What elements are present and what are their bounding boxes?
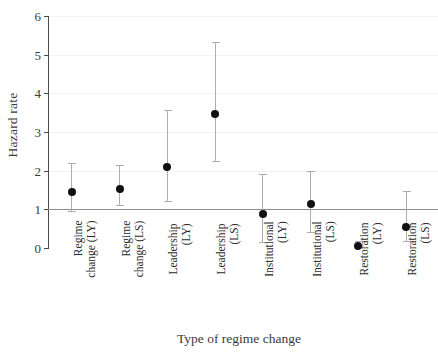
error-bar-cap-upper [403,191,411,192]
y-tick-label: 4 [35,87,42,100]
x-axis-title: Type of regime change [48,331,430,347]
error-bar-cap-upper [307,171,315,172]
y-tick-mark [44,171,48,172]
y-tick-label: 3 [35,126,42,139]
error-bar-cap-upper [212,42,220,43]
data-point [116,185,124,193]
error-bar-cap-lower [212,161,220,162]
y-tick-mark [44,16,48,17]
data-point [307,200,315,208]
error-bar-cap-upper [68,163,76,164]
data-point [211,110,219,118]
error-bar-cap-lower [116,205,124,206]
y-tick-label: 6 [35,10,42,23]
data-point [163,163,171,171]
error-bar-cap-upper [164,110,172,111]
x-axis-tick-labels: Regimechange (LY)Regimechange (LS)Leader… [48,249,430,327]
error-bar-cap-lower [68,211,76,212]
error-bar-cap-upper [116,165,124,166]
plot-area: 0123456 [48,16,430,248]
error-bar [215,42,216,161]
reference-line [48,209,438,210]
y-tick-label: 2 [35,164,42,177]
y-tick-mark [44,55,48,56]
error-bar-cap-lower [164,201,172,202]
y-tick-mark [44,132,48,133]
gridline [49,16,438,17]
y-tick-mark [44,93,48,94]
x-tick-label: Restoration(LS) [367,249,438,327]
error-bar [167,110,168,201]
y-axis-title: Hazard rate [0,0,26,250]
gridline [49,171,438,172]
y-axis-title-text: Hazard rate [5,93,21,158]
y-tick-label: 5 [35,48,42,61]
y-tick-label: 1 [35,203,42,216]
gridline [49,132,438,133]
x-tick-label-line: Restoration [406,222,419,275]
gridline [49,55,438,56]
error-bar-cap-upper [259,174,267,175]
x-tick-label-line: (LS) [419,222,432,275]
hazard-rate-chart: Hazard rate 0123456 Regimechange (LY)Reg… [0,0,438,355]
gridline [49,93,438,94]
data-point [68,188,76,196]
data-point [259,210,267,218]
